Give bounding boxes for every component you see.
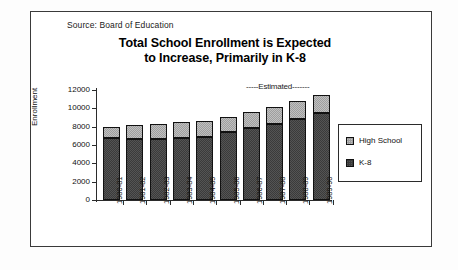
bar-segment-high-school [196, 121, 213, 137]
legend-swatch-k8 [346, 159, 354, 167]
bar-segment-high-school [313, 95, 330, 113]
bar-segment-high-school [289, 101, 306, 119]
x-tick-label: 1987-88 [278, 176, 287, 204]
x-tick-label: 1989-90 [325, 176, 334, 204]
chart-page: Source: Board of Education Total School … [0, 0, 458, 270]
legend-label-k8: K-8 [359, 158, 371, 167]
y-axis-title: Enrollment [30, 88, 39, 126]
x-tick-label: 1983-84 [185, 176, 194, 204]
bar-segment-high-school [126, 125, 143, 138]
y-tick-label: 2000 [72, 178, 90, 186]
legend-label-high-school: High School [359, 136, 402, 145]
legend-item-high-school[interactable]: High School [346, 136, 402, 145]
legend-swatch-high-school [346, 137, 354, 145]
y-tick-label: 0 [86, 196, 90, 204]
y-axis-labels: 020004000600080001000012000 [44, 0, 90, 270]
chart-title: Total School Enrollment is Expected to I… [60, 36, 390, 65]
x-tick-label: 1981-82 [138, 176, 147, 204]
chart-title-line2: to Increase, Primarily in K-8 [60, 51, 390, 66]
bar-segment-high-school [243, 112, 260, 128]
bar-segment-high-school [103, 127, 120, 138]
y-tick-label: 6000 [72, 141, 90, 149]
x-tick-label: 1982-83 [162, 176, 171, 204]
x-tick-label: 1980-81 [115, 176, 124, 204]
bar-segment-high-school [150, 124, 167, 139]
y-tick-label: 12000 [68, 86, 90, 94]
x-tick-label: 1986-87 [255, 176, 264, 204]
x-tick-label: 1984-85 [208, 176, 217, 204]
y-tick-label: 10000 [68, 104, 90, 112]
x-tick-label: 1985-86 [232, 176, 241, 204]
y-tick-label: 8000 [72, 123, 90, 131]
chart-legend: High School K-8 [338, 124, 422, 182]
x-tick-label: 1988-89 [301, 176, 310, 204]
y-tick [92, 200, 97, 201]
y-tick-label: 4000 [72, 159, 90, 167]
bar-segment-high-school [266, 107, 283, 125]
legend-item-k8[interactable]: K-8 [346, 158, 371, 167]
bar-segment-high-school [220, 117, 237, 133]
bar-segment-high-school [173, 122, 190, 138]
chart-title-line1: Total School Enrollment is Expected [119, 36, 331, 50]
